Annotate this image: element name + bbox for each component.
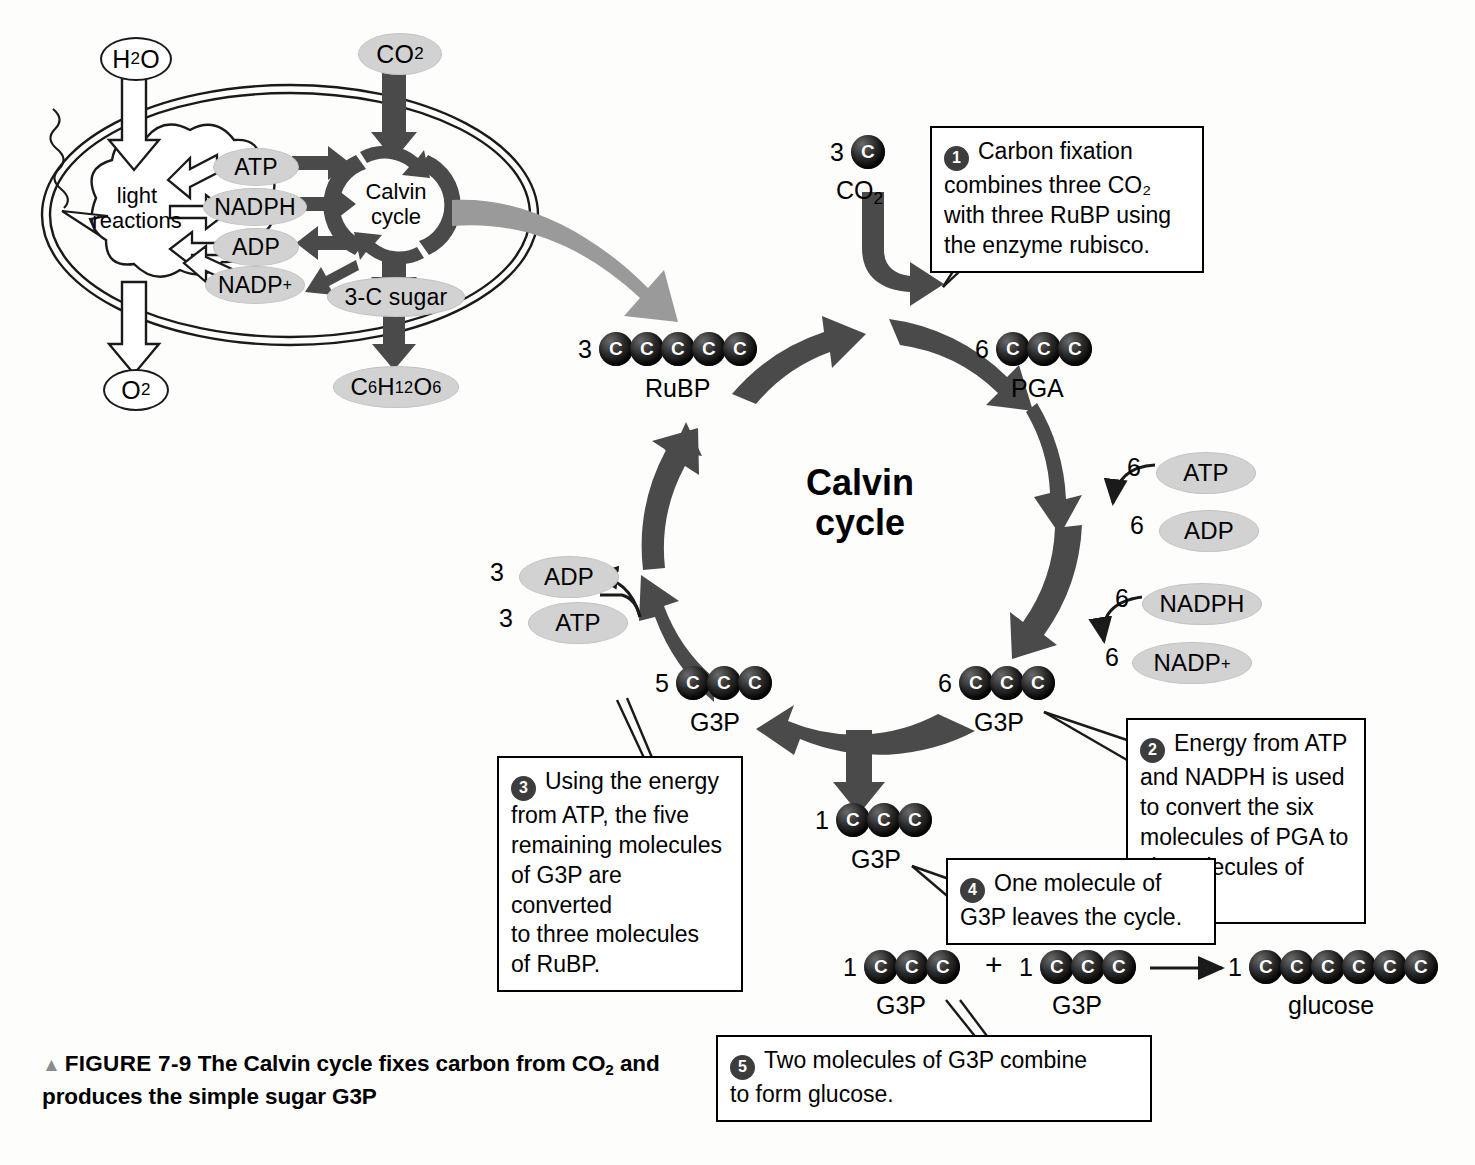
carbon-sphere [1021,666,1055,700]
plus-glyph: + [985,948,1003,982]
figure-caption: ▲FIGURE 7-9 The Calvin cycle fixes carbo… [42,1048,732,1113]
g3p-five-count: 5 [655,671,669,696]
inset-adp-pill: ADP [213,228,299,266]
inset-o2-label: O2 [103,369,169,411]
molecule-pga: 6 [975,332,1089,366]
g3p-bl-label: G3P [876,991,926,1020]
atp-right-pill: ATP [1156,452,1256,494]
co2-input-label-text: CO [836,176,874,204]
h2o-subscript: 2 [130,49,140,69]
callout-5-line-2: to form glucose. [730,1081,894,1107]
g3p-six-label: G3P [974,708,1024,737]
carbon-sphere [867,803,901,837]
nadp-right-sup: + [1221,654,1231,673]
adp-right-count: 6 [1130,511,1144,540]
figure-canvas: H2O O2 CO2 light reactions Calvin cycle … [0,0,1475,1165]
pga-carbons [996,332,1089,366]
carbon-sphere [1071,950,1105,984]
g3p-five-carbons [676,666,769,700]
caption-subscript: 2 [605,1061,613,1078]
g3p-five-label: G3P [690,708,740,737]
callout-1-line-3: with three RuBP using [944,202,1171,228]
carbon-sphere [1040,950,1074,984]
carbon-sphere [926,950,960,984]
carbon-sphere [1027,332,1061,366]
glucose-carbons [1249,950,1435,984]
carbon-sphere [996,332,1030,366]
carbon-sphere [959,666,993,700]
carbon-sphere [599,332,633,366]
h2o-text: H [112,45,130,74]
calvin-cycle-title: Calvin cycle [760,463,960,544]
callout-1-line-4: the enzyme rubisco. [944,232,1150,258]
glucose-count: 1 [1228,955,1242,980]
inset-nadp-sup: + [283,276,292,294]
step-badge-5: 5 [730,1055,755,1080]
carbon-sphere [990,666,1024,700]
nadph-right-pill: NADPH [1142,583,1262,625]
callout-1-line-2: combines three CO₂ [944,172,1151,198]
o2-subscript: 2 [141,380,151,400]
atp-left-pill: ATP [528,602,628,644]
callout-3-line-3: remaining molecules [511,832,722,858]
carbon-sphere [630,332,664,366]
callout-step-3: 3Using the energy from ATP, the five rem… [497,756,743,992]
carbon-sphere [723,332,757,366]
callout-step-4: 4One molecule of G3P leaves the cycle. [946,858,1216,945]
molecule-g3p-bottom-left: 1 [843,950,957,984]
molecule-g3p-bottom-right: 1 [1019,950,1133,984]
formula-o: O [413,373,432,401]
inset-atp-pill: ATP [213,148,299,186]
rubp-label: RuBP [645,374,710,403]
carbon-sphere [1102,950,1136,984]
callout-3-line-2: from ATP, the five [511,802,689,828]
formula-c1: C [350,373,368,401]
carbon-sphere [1373,950,1407,984]
h2o-text-tail: O [140,45,160,74]
pga-label: PGA [1011,374,1064,403]
carbon-sphere [898,803,932,837]
molecule-rubp: 3 [578,332,754,366]
g3p-six-carbons [959,666,1052,700]
carbon-sphere [1058,332,1092,366]
carbon-sphere [1311,950,1345,984]
callout-2-line-4: molecules of PGA to [1140,824,1348,850]
g3p-br-carbons [1040,950,1133,984]
inset-co2-label: CO2 [358,33,442,75]
figure-number: FIGURE 7-9 [65,1051,192,1076]
o2-arrow [109,282,159,374]
molecule-g3p-five: 5 [655,666,769,700]
nadph-right-count: 6 [1115,584,1129,613]
inset-calvin-cycle-label: Calvin cycle [356,180,436,229]
callout-4-line-2: G3P leaves the cycle. [960,904,1182,930]
carbon-sphere [895,950,929,984]
co2-input-label-sub: 2 [874,189,883,208]
callout-2-line-2: and NADPH is used [1140,764,1345,790]
inset-nadp-pill: NADP+ [205,266,305,304]
molecule-g3p-one: 1 [815,803,929,837]
light-reactions-label: light reactions [78,184,196,233]
g3p-bl-carbons [864,950,957,984]
callout-step-1: 1Carbon fixation combines three CO₂ with… [930,126,1204,273]
inset-glucose-formula: C6H12O6 [333,366,459,408]
formula-12: 12 [395,378,414,397]
nadp-right-pill: NADP+ [1132,642,1252,684]
step-badge-1: 1 [944,146,969,171]
g3p-one-carbons [836,803,929,837]
inset-zoom-connector [452,200,678,322]
adp-left-count: 3 [490,558,504,587]
callout-step-5: 5Two molecules of G3P combine to form gl… [716,1035,1152,1122]
inset-nadp-text: NADP [218,272,283,299]
molecule-co2-input: 3 [830,135,882,169]
carbon-sphere [692,332,726,366]
callout-1-line-1: Carbon fixation [978,138,1133,164]
inset-3c-sugar-pill: 3-C sugar [327,277,465,317]
o2-text: O [121,376,141,405]
callout-3-line-4: of G3P are converted [511,862,622,918]
caption-text-b: and [614,1051,660,1076]
g3p-br-count: 1 [1019,955,1033,980]
inset-co2-text: CO [376,40,414,69]
step-badge-2: 2 [1140,738,1165,763]
carbon-sphere [1280,950,1314,984]
adp-left-pill: ADP [519,556,619,598]
